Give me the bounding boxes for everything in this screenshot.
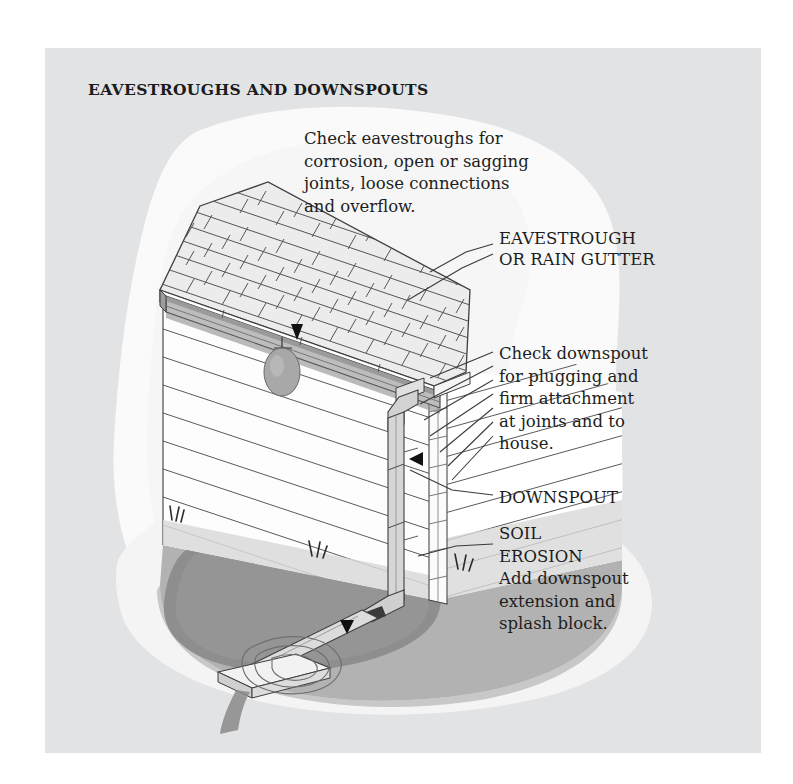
callout-eavestrough-check: Check eavestroughs for corrosion, open o…: [304, 128, 529, 218]
callout-downspout-check: Check downspout for plugging and firm at…: [499, 343, 648, 456]
illustration-canvas: [0, 0, 793, 784]
callout-downspout-label: DOWNSPOUT: [499, 487, 618, 510]
page-root: EAVESTROUGHS AND DOWNSPOUTS Check eavest…: [0, 0, 793, 784]
callout-eavestrough-label: EAVESTROUGH OR RAIN GUTTER: [499, 228, 655, 270]
page-title: EAVESTROUGHS AND DOWNSPOUTS: [88, 80, 429, 99]
callout-soil-erosion: SOIL EROSION Add downspout extension and…: [499, 523, 629, 636]
